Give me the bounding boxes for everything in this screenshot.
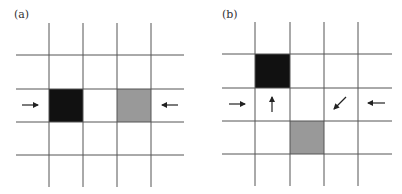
down-left-arrow-icon: [334, 97, 346, 109]
gray-cell: [117, 89, 151, 122]
panel-b-label: (b): [222, 8, 238, 21]
black-cell: [49, 89, 83, 122]
gray-cell: [290, 121, 324, 154]
panel-a: [16, 23, 184, 187]
diagram-canvas: [0, 0, 402, 194]
black-cell: [255, 54, 290, 88]
panel-b: [222, 22, 392, 186]
panel-a-label: (a): [14, 8, 29, 21]
